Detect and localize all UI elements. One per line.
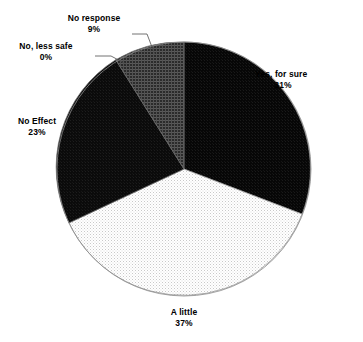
pie-label-a-little-percent: 37% (149, 318, 219, 329)
pie-label-yes-for-sure: Yes, for sure 31% (255, 69, 311, 91)
pie-label-no-response: No response 9% (46, 13, 142, 35)
pie-label-yes-for-sure-name: Yes, for sure (255, 69, 311, 80)
pie-label-no-response-name: No response (46, 13, 142, 24)
pie-label-no-effect: No Effect 23% (3, 116, 71, 138)
pie-label-a-little: A little 37% (149, 307, 219, 329)
pie-label-no-effect-percent: 23% (3, 127, 71, 138)
pie-label-no-less-safe: No, less safe 0% (0, 41, 92, 63)
pie-label-yes-for-sure-percent: 31% (255, 80, 311, 91)
pie-label-a-little-name: A little (149, 307, 219, 318)
pie-chart: Yes, for sure 31% A little 37% No Effect… (0, 0, 363, 342)
pie-label-no-effect-name: No Effect (3, 116, 71, 127)
pie-label-no-response-percent: 9% (46, 24, 142, 35)
pie-label-no-less-safe-percent: 0% (0, 52, 92, 63)
pie-label-no-less-safe-name: No, less safe (0, 41, 92, 52)
